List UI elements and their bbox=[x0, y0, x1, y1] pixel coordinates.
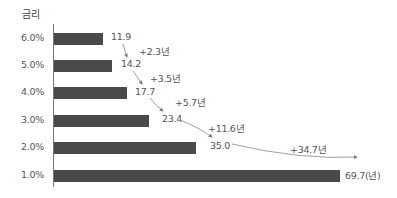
trend-arrows bbox=[0, 0, 397, 198]
